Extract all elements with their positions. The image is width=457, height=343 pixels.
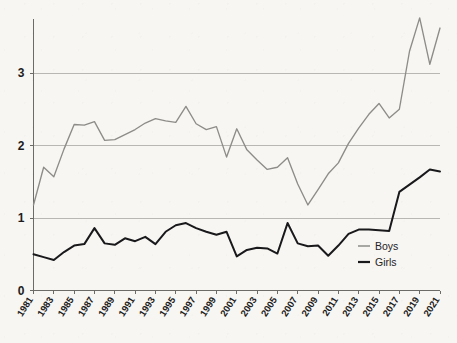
- line-chart: 0123 19811983198519871989199119931995199…: [0, 0, 457, 343]
- x-tick-label-1987: 1987: [75, 295, 96, 319]
- series-line-boys: [34, 18, 441, 205]
- x-tick-label-2017: 2017: [380, 295, 401, 319]
- y-tick-label-2: 2: [18, 139, 25, 153]
- y-tick-label-3: 3: [18, 66, 25, 80]
- y-tick-label-1: 1: [18, 211, 25, 225]
- x-tick-label-1989: 1989: [96, 295, 117, 319]
- y-axis-ticks: 0123: [18, 66, 34, 298]
- x-tick-label-1981: 1981: [14, 294, 35, 318]
- x-tick-label-1985: 1985: [55, 294, 76, 318]
- x-tick-label-2005: 2005: [258, 294, 279, 318]
- x-tick-label-1999: 1999: [197, 295, 218, 319]
- chart-canvas: 0123 19811983198519871989199119931995199…: [0, 0, 457, 343]
- legend-label-girls: Girls: [375, 256, 397, 268]
- chart-legend: BoysGirls: [358, 240, 398, 268]
- x-tick-label-2011: 2011: [320, 294, 341, 318]
- x-tick-label-1993: 1993: [136, 295, 157, 319]
- x-tick-label-1991: 1991: [116, 294, 137, 318]
- legend-label-boys: Boys: [375, 240, 398, 252]
- x-tick-label-2001: 2001: [218, 294, 239, 318]
- x-tick-label-2015: 2015: [360, 294, 381, 318]
- x-axis-ticks: 1981198319851987198919911993199519971999…: [14, 291, 442, 319]
- x-tick-label-2009: 2009: [299, 295, 320, 319]
- gridlines: [34, 73, 441, 218]
- x-tick-label-2007: 2007: [279, 295, 300, 319]
- x-tick-label-2021: 2021: [421, 294, 442, 318]
- x-tick-label-1997: 1997: [177, 295, 198, 319]
- x-tick-label-2019: 2019: [401, 295, 422, 319]
- x-tick-label-2013: 2013: [340, 295, 361, 319]
- x-tick-label-1995: 1995: [157, 294, 178, 318]
- x-tick-label-1983: 1983: [35, 295, 56, 319]
- y-tick-label-0: 0: [18, 284, 25, 298]
- x-tick-label-2003: 2003: [238, 295, 259, 319]
